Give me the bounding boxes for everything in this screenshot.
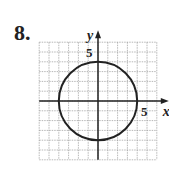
y-axis-arrow (95, 30, 101, 38)
x-axis-label: x (162, 104, 169, 119)
y-tick-label: 5 (86, 45, 93, 60)
y-axis-label: y (85, 28, 94, 43)
x-tick-label: 5 (141, 104, 148, 119)
graph: x y 5 5 (0, 0, 169, 170)
